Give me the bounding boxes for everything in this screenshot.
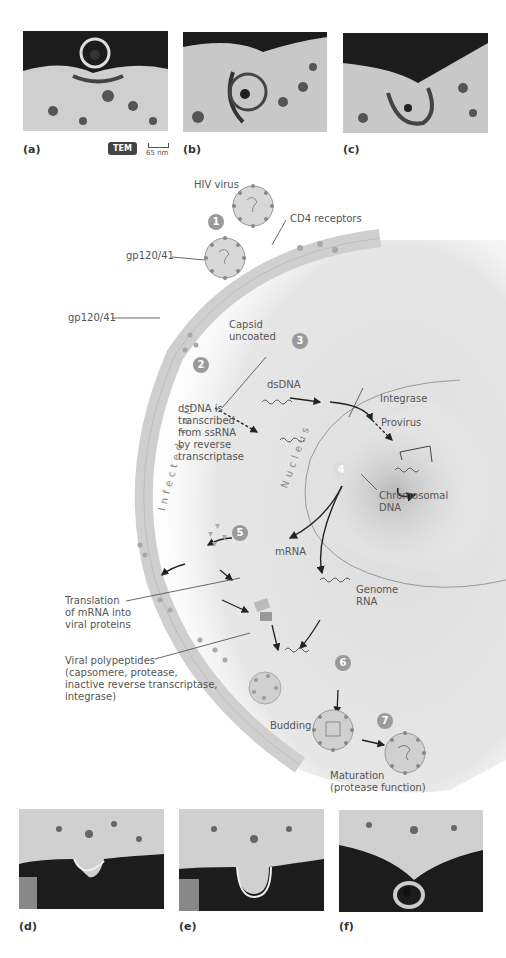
provirus-label: Provirus [381, 417, 421, 429]
gp120-41-label-top: gp120/41 [126, 250, 174, 262]
capsid-uncoated-label: Capsid uncoated [229, 319, 276, 343]
micrograph-d-texture [19, 809, 164, 909]
panel-label-d: (d) [19, 920, 37, 933]
step-3-marker: 3 [292, 333, 308, 349]
panel-label-e: (e) [179, 920, 197, 933]
dsdna-transcribed-label: dsDNA is transcribed from ssRNA by rever… [178, 403, 244, 463]
genome-rna-label: Genome RNA [356, 584, 398, 608]
step-2-marker: 2 [193, 357, 209, 373]
step-1-marker: 1 [208, 214, 224, 230]
maturation-label: Maturation (protease function) [330, 770, 426, 794]
micrograph-d [19, 809, 164, 909]
chromosomal-dna-label: Chromosomal DNA [379, 490, 448, 514]
micrograph-f [339, 810, 483, 912]
cd4-receptors-label: CD4 receptors [290, 213, 362, 225]
gp120-41-label-mid: gp120/41 [68, 312, 116, 324]
translation-label: Translation of mRNA into viral proteins [65, 595, 131, 631]
dsdna-label: dsDNA [267, 379, 301, 391]
micrograph-e [179, 809, 324, 911]
panel-label-f: (f) [339, 920, 354, 933]
hiv-virus-attached [204, 236, 246, 280]
hiv-virus-label: HIV virus [194, 179, 239, 191]
mrna-label: mRNA [275, 546, 306, 558]
step-6-marker: 6 [335, 655, 351, 671]
step-7-marker: 7 [377, 713, 393, 729]
viral-polypeptides-label: Viral polypeptides (capsomere, protease,… [65, 655, 218, 703]
hiv-virus-emerging [249, 672, 281, 704]
step-4-marker: 4 [333, 462, 349, 478]
step-5-marker: 5 [232, 525, 248, 541]
micrograph-e-texture [179, 809, 324, 911]
micrograph-f-texture [339, 810, 483, 912]
integrase-label: Integrase [380, 393, 427, 405]
budding-label: Budding [270, 720, 311, 732]
